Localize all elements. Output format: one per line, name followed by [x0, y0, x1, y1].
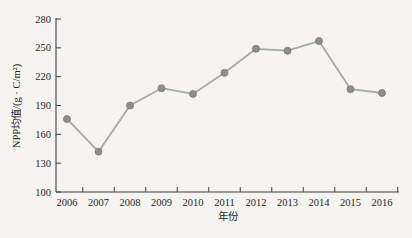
y-tick-label: 190 [35, 100, 51, 111]
x-tick-label: 2011 [214, 197, 235, 208]
npp-line-chart: 2802502201901601301002006200720082009201… [0, 0, 412, 238]
y-tick-label: 250 [35, 42, 51, 53]
data-point-2014 [316, 38, 323, 45]
x-tick-label: 2009 [151, 197, 172, 208]
x-tick-label: 2013 [277, 197, 298, 208]
data-point-2009 [158, 85, 165, 92]
data-point-2010 [190, 90, 197, 97]
data-point-2011 [221, 69, 228, 76]
data-point-2012 [253, 45, 260, 52]
x-tick-label: 2008 [120, 197, 141, 208]
y-tick-label: 160 [35, 129, 51, 140]
data-point-2006 [64, 115, 71, 122]
x-tick-label: 2014 [309, 197, 331, 208]
y-tick-label: 130 [35, 158, 51, 169]
data-point-2015 [347, 86, 354, 93]
y-tick-label: 220 [35, 71, 51, 82]
data-point-2016 [379, 90, 386, 97]
x-tick-label: 2010 [183, 197, 204, 208]
x-tick-label: 2012 [246, 197, 267, 208]
data-point-2007 [95, 148, 102, 155]
chart-figure: 2802502201901601301002006200720082009201… [0, 0, 412, 238]
y-axis-title: NPP均值/(g · C/m²) [10, 63, 23, 148]
x-tick-label: 2016 [372, 197, 393, 208]
data-line [67, 41, 382, 152]
x-tick-label: 2007 [88, 197, 109, 208]
y-tick-label: 100 [35, 187, 51, 198]
y-tick-label: 280 [35, 14, 51, 25]
x-tick-label: 2015 [340, 197, 361, 208]
x-tick-label: 2006 [57, 197, 78, 208]
data-point-2013 [284, 47, 291, 54]
data-point-2008 [127, 102, 134, 109]
x-axis-title: 年份 [218, 210, 239, 222]
